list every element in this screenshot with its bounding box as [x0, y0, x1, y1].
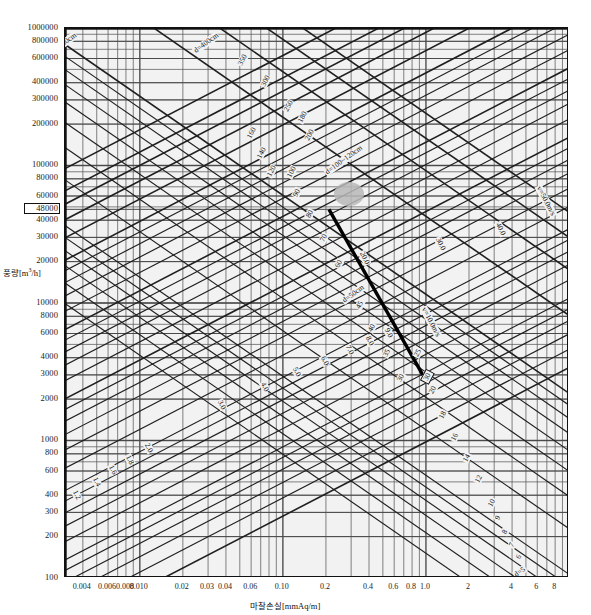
y-axis-tick: 600 [0, 466, 58, 475]
y-axis-tick: 1000000 [0, 23, 58, 32]
x-axis-title: 마찰손실[mmAq/m] [250, 599, 320, 611]
x-axis-tick: 0.010 [119, 583, 159, 591]
y-axis-tick: 2000 [0, 394, 58, 403]
y-axis-tick: 200 [0, 531, 58, 540]
y-axis-tick: 300 [0, 507, 58, 516]
x-axis-tick: 1.0 [405, 583, 445, 591]
x-axis-tick: 0.2 [305, 583, 345, 591]
y-axis-tick: 60000 [0, 191, 58, 200]
x-axis-tick: 0.10 [262, 583, 302, 591]
y-axis-tick: 3000 [0, 369, 58, 378]
y-axis-tick: 400 [0, 490, 58, 499]
y-axis-tick: 800 [0, 448, 58, 457]
y-axis-title: 풍량[m3/h] [3, 266, 41, 278]
y-axis-tick: 20000 [0, 256, 58, 265]
highlight-marker [334, 182, 364, 206]
y-axis-tick: 1000 [0, 435, 58, 444]
y-axis-tick: 80000 [0, 173, 58, 182]
y-axis-tick: 100000 [0, 160, 58, 169]
y-axis-tick: 100 [0, 573, 58, 582]
chart-canvas: 1000000800000600000400000300000200000100… [0, 0, 591, 615]
y-axis-tick: 800000 [0, 36, 58, 45]
plot-area: d=500cmd=400cm35030025020018016014012010… [64, 27, 568, 577]
y-axis-tick: 200000 [0, 119, 58, 128]
y-axis-tick: 30000 [0, 232, 58, 241]
page-title [0, 0, 591, 14]
grid-and-curves [65, 28, 568, 577]
x-axis-tick: 2 [448, 583, 488, 591]
y-axis-tick: 6000 [0, 328, 58, 337]
y-axis-tick: 4000 [0, 352, 58, 361]
y-axis-tick: 40000 [0, 215, 58, 224]
x-axis-tick: 8 [534, 583, 574, 591]
y-axis-tick: 600000 [0, 53, 58, 62]
y-axis-tick-highlighted: 48000 [24, 203, 60, 214]
y-axis-tick: 10000 [0, 298, 58, 307]
y-axis-tick: 8000 [0, 311, 58, 320]
y-axis-tick: 300000 [0, 94, 58, 103]
y-axis-tick: 400000 [0, 77, 58, 86]
